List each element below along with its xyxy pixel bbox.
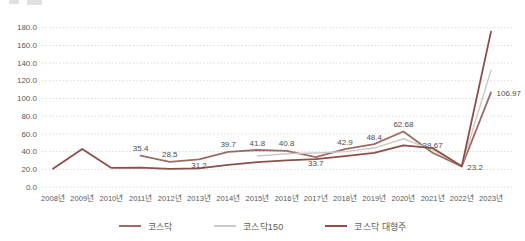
y-tick-label: 100.0 bbox=[17, 94, 38, 103]
x-tick-label: 2014년 bbox=[216, 193, 240, 203]
y-tick-label: 140.0 bbox=[17, 59, 38, 68]
legend-item-kosdaq150: 코스닥150 bbox=[214, 220, 283, 233]
data-label: 23.2 bbox=[467, 163, 483, 172]
x-tick-label: 2013년 bbox=[187, 193, 211, 203]
x-tick-label: 2022년 bbox=[450, 193, 474, 203]
y-tick-label: 120.0 bbox=[17, 76, 38, 85]
legend-swatch-kosdaq-largecap bbox=[325, 225, 347, 227]
data-label: 28.5 bbox=[162, 150, 178, 159]
legend-label-kosdaq: 코스닥 bbox=[148, 220, 173, 233]
x-tick-label: 2010년 bbox=[99, 193, 123, 203]
plot-area: 0.020.040.060.080.0100.0120.0140.0160.01… bbox=[0, 0, 525, 212]
data-label: 42.9 bbox=[337, 138, 353, 147]
data-label: 33.7 bbox=[308, 159, 324, 168]
y-tick-label: 60.0 bbox=[21, 130, 37, 139]
y-tick-label: 40.0 bbox=[21, 147, 37, 156]
legend-swatch-kosdaq bbox=[119, 225, 141, 227]
data-label: 35.4 bbox=[133, 144, 149, 153]
y-tick-label: 80.0 bbox=[21, 112, 37, 121]
data-label: 41.8 bbox=[250, 139, 266, 148]
legend: 코스닥 코스닥150 코스닥 대형주 bbox=[0, 214, 525, 238]
series-line-코스닥 bbox=[141, 92, 491, 166]
x-tick-label: 2020년 bbox=[391, 193, 415, 203]
legend-label-kosdaq150: 코스닥150 bbox=[243, 220, 283, 233]
x-tick-label: 2019년 bbox=[362, 193, 386, 203]
x-tick-label: 2016년 bbox=[275, 193, 299, 203]
data-label: 38.67 bbox=[423, 141, 444, 150]
legend-swatch-kosdaq150 bbox=[214, 225, 236, 227]
data-label: 62.68 bbox=[393, 120, 414, 129]
x-tick-label: 2012년 bbox=[158, 193, 182, 203]
legend-item-kosdaq-largecap: 코스닥 대형주 bbox=[325, 220, 406, 233]
x-tick-label: 2009년 bbox=[70, 193, 94, 203]
x-tick-label: 2017년 bbox=[304, 193, 328, 203]
x-tick-label: 2015년 bbox=[245, 193, 269, 203]
x-tick-label: 2018년 bbox=[333, 193, 357, 203]
y-tick-label: 160.0 bbox=[17, 41, 38, 50]
y-tick-label: 0.0 bbox=[26, 183, 38, 192]
per-line-chart: 0.020.040.060.080.0100.0120.0140.0160.01… bbox=[0, 0, 525, 241]
y-tick-label: 180.0 bbox=[17, 23, 38, 32]
data-label: 106.97 bbox=[497, 89, 522, 98]
data-label: 48.4 bbox=[366, 133, 382, 142]
legend-item-kosdaq: 코스닥 bbox=[119, 220, 173, 233]
gridlines bbox=[42, 28, 512, 187]
x-axis-tick-labels: 2008년2009년2010년2011년2012년2013년2014년2015년… bbox=[41, 193, 503, 203]
legend-label-kosdaq-largecap: 코스닥 대형주 bbox=[354, 220, 406, 233]
x-tick-label: 2008년 bbox=[41, 193, 65, 203]
x-tick-label: 2023년 bbox=[479, 193, 503, 203]
x-tick-label: 2011년 bbox=[129, 193, 152, 203]
data-label: 31.2 bbox=[191, 161, 207, 170]
y-axis-tick-labels: 0.020.040.060.080.0100.0120.0140.0160.01… bbox=[17, 23, 38, 191]
data-label: 40.8 bbox=[279, 139, 295, 148]
data-label: 39.7 bbox=[220, 140, 236, 149]
y-tick-label: 20.0 bbox=[21, 165, 37, 174]
x-tick-label: 2021년 bbox=[421, 193, 445, 203]
